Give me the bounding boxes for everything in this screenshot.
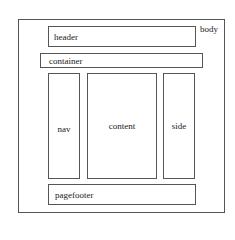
body-label: body	[200, 25, 218, 34]
side-box: side	[163, 73, 195, 179]
container-box: container	[40, 53, 203, 68]
side-label: side	[172, 121, 187, 131]
content-box: content	[87, 73, 157, 179]
pagefooter-box: pagefooter	[48, 184, 196, 205]
content-label: content	[109, 121, 136, 131]
nav-label: nav	[58, 124, 71, 134]
header-label: header	[54, 33, 78, 42]
pagefooter-label: pagefooter	[55, 191, 93, 200]
container-label: container	[49, 57, 82, 66]
nav-box: nav	[48, 73, 80, 179]
header-box: header	[48, 26, 196, 47]
